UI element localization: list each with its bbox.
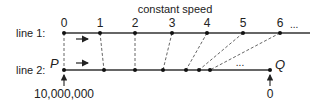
diagram-canvas: constant speed line 1: line 2: 0 1 2 3 4…: [0, 0, 321, 107]
tick-label-2: 2: [132, 16, 139, 30]
line1-label: line 1:: [16, 27, 45, 39]
line2-label: line 2:: [16, 64, 45, 76]
tick-label-5: 5: [240, 16, 247, 30]
line1-ellipsis: ...: [290, 19, 298, 30]
line2-ellipsis: ...: [236, 57, 244, 68]
tick-label-3: 3: [169, 16, 176, 30]
tick-label-6: 6: [277, 16, 284, 30]
point-p-label: P: [50, 56, 59, 71]
tick-label-1: 1: [97, 16, 104, 30]
tick-label-0: 0: [61, 16, 68, 30]
diagram-title: constant speed: [138, 3, 213, 15]
point-q-label: Q: [275, 57, 285, 72]
p-value-label: 10,000,000: [34, 87, 94, 101]
tick-label-4: 4: [204, 16, 211, 30]
dashed-connectors: [64, 33, 280, 70]
q-value-label: 0: [267, 87, 274, 101]
